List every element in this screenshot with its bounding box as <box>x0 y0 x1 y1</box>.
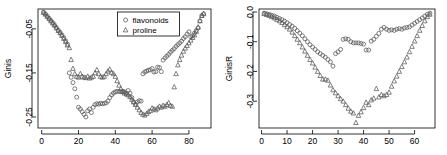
data-point <box>420 23 425 27</box>
data-point <box>354 120 359 124</box>
data-point <box>377 31 381 35</box>
data-point <box>397 69 402 73</box>
data-point <box>177 57 182 61</box>
data-point <box>389 84 394 88</box>
data-point <box>331 64 335 68</box>
x-tick-label: 30 <box>333 136 343 146</box>
y-tick-label: -0.05 <box>24 19 34 39</box>
data-point <box>328 60 332 64</box>
data-point <box>308 43 312 47</box>
panel-left: -0.05-0.15-0.25020406080Ginisflavonoidsp… <box>0 0 223 155</box>
x-tick-label: 60 <box>410 136 420 146</box>
data-point <box>318 73 323 77</box>
data-point <box>336 93 341 97</box>
data-point <box>362 42 366 46</box>
data-point <box>412 39 417 43</box>
data-point <box>415 33 420 37</box>
x-tick-label: 40 <box>111 136 121 146</box>
y-tick-label: -0.3 <box>245 94 255 109</box>
y-axis-title: Ginis <box>3 59 13 78</box>
data-point <box>293 26 297 30</box>
data-point <box>374 86 379 90</box>
data-point <box>89 111 93 115</box>
data-point <box>71 66 76 70</box>
data-point <box>410 44 415 48</box>
data-point <box>69 57 74 61</box>
x-tick-label: 60 <box>147 136 157 146</box>
data-point <box>387 90 392 94</box>
data-point <box>308 57 313 61</box>
data-point <box>402 59 407 63</box>
x-tick-label: 20 <box>308 136 318 146</box>
data-point <box>303 49 308 53</box>
data-point <box>295 29 299 33</box>
data-point <box>367 48 371 52</box>
data-point <box>326 58 330 62</box>
data-point <box>174 71 179 75</box>
data-point <box>417 28 422 32</box>
data-point <box>392 78 397 82</box>
data-point <box>71 81 75 85</box>
data-point <box>394 74 399 78</box>
y-tick-label: 0.0 <box>245 6 255 18</box>
chart-right: 0.0-0.1-0.2-0.30102030405060GinisR <box>223 0 447 155</box>
x-tick-label: 50 <box>384 136 394 146</box>
series-flavonoids <box>262 11 432 68</box>
panel-right: 0.0-0.1-0.2-0.30102030405060GinisR <box>223 0 447 155</box>
data-point <box>333 90 338 94</box>
data-point <box>73 87 77 91</box>
x-tick-label: 20 <box>74 136 84 146</box>
data-point <box>313 65 318 69</box>
x-tick-label: 10 <box>282 136 292 146</box>
data-point <box>67 71 71 75</box>
data-point <box>305 53 310 57</box>
data-point <box>405 55 410 59</box>
y-tick-label: -0.15 <box>24 63 34 83</box>
data-point <box>359 109 364 113</box>
data-point <box>198 18 203 22</box>
legend-label-flavonoids: flavonoids <box>133 16 169 25</box>
data-point <box>176 62 181 66</box>
y-axis-title: GinisR <box>224 56 234 82</box>
data-point <box>372 96 377 100</box>
x-tick-label: 0 <box>259 136 264 146</box>
x-tick-label: 80 <box>184 136 194 146</box>
data-point <box>159 70 163 74</box>
data-point <box>115 78 120 82</box>
data-point <box>339 47 343 51</box>
figure-root: -0.05-0.15-0.25020406080Ginisflavonoidsp… <box>0 0 447 155</box>
x-tick-label: 0 <box>39 136 44 146</box>
data-point <box>400 64 405 68</box>
data-point <box>311 45 315 49</box>
chart-left: -0.05-0.15-0.25020406080Ginisflavonoidsp… <box>0 0 223 155</box>
y-tick-label: -0.2 <box>245 64 255 79</box>
data-point <box>331 87 336 91</box>
data-point <box>423 18 428 22</box>
legend-label-proline: proline <box>133 26 158 35</box>
data-point <box>313 47 317 51</box>
data-point <box>361 105 366 109</box>
data-point <box>172 85 177 89</box>
data-point <box>315 69 320 73</box>
y-tick-label: -0.1 <box>245 34 255 49</box>
x-tick-label: 40 <box>359 136 369 146</box>
y-tick-label: -0.25 <box>24 107 34 127</box>
data-point <box>346 37 350 41</box>
data-point <box>328 83 333 87</box>
data-point <box>407 49 412 53</box>
data-point <box>75 95 79 99</box>
data-point <box>300 45 305 49</box>
